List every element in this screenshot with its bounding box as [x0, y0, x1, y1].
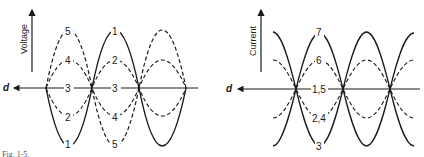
- standing-wave-figure: Voltage d 5 4 1 2 3 3 2 1 4 5: [0, 0, 424, 157]
- current-label-7: 7: [316, 27, 322, 38]
- voltage-axis-label: Voltage: [19, 24, 29, 54]
- voltage-d-label: d: [3, 82, 10, 93]
- voltage-label-4-top: 4: [65, 55, 71, 66]
- voltage-label-2-bottom: 2: [65, 112, 71, 123]
- voltage-label-1-bottom: 1: [65, 139, 71, 150]
- voltage-label-3-seg1: 3: [65, 83, 71, 94]
- voltage-label-2-top: 2: [112, 55, 118, 66]
- current-label-2-4: 2,4: [312, 113, 326, 124]
- current-label-1-5: 1,5: [312, 84, 326, 95]
- voltage-label-5-top: 5: [65, 26, 71, 37]
- current-label-6: 6: [316, 55, 322, 66]
- current-panel: Current d 7 6 1,5 2,4 3: [226, 10, 420, 152]
- figure-caption: Fig. 1-5.: [2, 150, 29, 157]
- current-label-3: 3: [316, 141, 322, 152]
- voltage-label-5-bottom: 5: [112, 139, 118, 150]
- current-d-label: d: [226, 83, 233, 94]
- current-axis-label: Current: [248, 25, 258, 56]
- voltage-panel: Voltage d 5 4 1 2 3 3 2 1 4 5: [3, 10, 198, 150]
- voltage-label-1-top: 1: [112, 26, 118, 37]
- voltage-label-3-seg2: 3: [112, 83, 118, 94]
- voltage-label-4-bottom: 4: [112, 112, 118, 123]
